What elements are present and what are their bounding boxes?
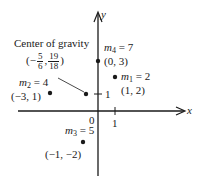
- cog-y-fraction: 1918: [48, 52, 59, 71]
- m1-name: m: [121, 70, 129, 82]
- m3-mass-label: m3 = 5: [65, 124, 94, 140]
- center-of-gravity-coords: (−56,1918): [26, 52, 64, 71]
- m4-value: = 7: [116, 41, 133, 53]
- point-m4: [96, 59, 100, 63]
- m3-coord-label: (−1, −2): [45, 148, 81, 160]
- m1-value: = 2: [133, 70, 150, 82]
- center-of-gravity-title: Center of gravity: [14, 37, 89, 49]
- x-axis-label: x: [187, 104, 192, 116]
- center-of-gravity-leader-line: [58, 78, 84, 92]
- cog-close-paren: ): [60, 54, 64, 66]
- cog-x-fraction: 56: [37, 52, 44, 71]
- cog-y-denominator: 18: [48, 62, 59, 71]
- cog-x-denominator: 6: [37, 62, 44, 71]
- point-m3: [81, 140, 85, 144]
- x-tick-label: 1: [112, 117, 118, 129]
- point-m2: [48, 91, 52, 95]
- m2-name: m: [19, 76, 27, 88]
- m3-name: m: [65, 124, 73, 136]
- m1-coord-label: (1, 2): [121, 84, 145, 96]
- point-m1: [113, 75, 117, 79]
- y-axis-label: y: [101, 8, 106, 20]
- point-center-of-gravity: [84, 92, 88, 96]
- m4-coord-label: (0, 3): [104, 55, 128, 67]
- m3-value: = 5: [77, 124, 94, 136]
- m2-coord-label: (−3, 1): [11, 90, 41, 102]
- m4-name: m: [104, 41, 112, 53]
- cog-comma: ,: [44, 54, 47, 66]
- cog-open-paren: (−: [26, 54, 36, 66]
- m2-value: = 4: [31, 76, 48, 88]
- y-tick-label: 1: [105, 88, 111, 100]
